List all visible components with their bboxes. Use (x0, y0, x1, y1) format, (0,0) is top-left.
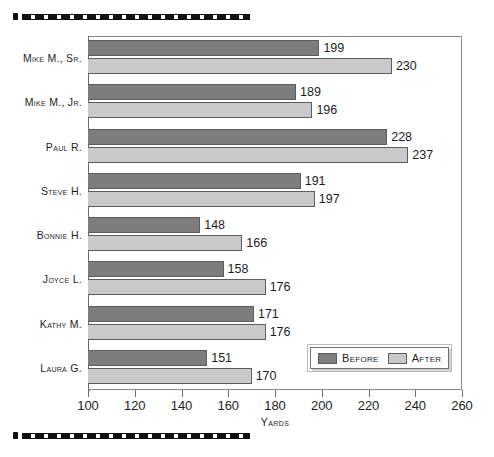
bar-before: 151 (88, 350, 207, 366)
bar-group: Joyce L.158176 (88, 257, 462, 301)
category-label: Mike M., Jr. (25, 96, 82, 108)
bar-value-label: 158 (228, 262, 249, 276)
bar-before: 191 (88, 173, 301, 189)
chart-legend: Before After (310, 347, 449, 369)
axis-tick-label: 220 (358, 398, 380, 413)
category-label: Paul R. (46, 141, 82, 153)
bar-after: 166 (88, 235, 242, 251)
bar-value-label: 189 (300, 85, 321, 99)
rule-dashes (22, 433, 250, 439)
axis-tick (275, 390, 276, 397)
bar-after: 197 (88, 191, 315, 207)
bar-after: 176 (88, 324, 266, 340)
rule-dot-icon (13, 432, 18, 439)
bar-slot: 228 (88, 129, 462, 145)
bar-before: 148 (88, 217, 200, 233)
category-label: Mike M., Sr. (23, 52, 82, 64)
bar-group: Steve H.191197 (88, 169, 462, 213)
bar-value-label: 237 (412, 148, 433, 162)
bar-before: 171 (88, 306, 254, 322)
bar-value-label: 191 (305, 174, 326, 188)
bar-group: Mike M., Sr.199230 (88, 36, 462, 80)
bar-before: 158 (88, 261, 224, 277)
legend-swatch-after-icon (388, 353, 407, 364)
axis-tick-label: 200 (311, 398, 333, 413)
bar-slot: 171 (88, 306, 462, 322)
bar-value-label: 151 (211, 351, 232, 365)
bar-after: 230 (88, 58, 392, 74)
bar-group: Mike M., Jr.189196 (88, 80, 462, 124)
category-label: Kathy M. (40, 318, 82, 330)
axis-tick-label: 260 (451, 398, 473, 413)
bar-slot: 166 (88, 235, 462, 251)
bar-before: 199 (88, 40, 319, 56)
bar-slot: 170 (88, 368, 462, 384)
category-label: Bonnie H. (37, 229, 82, 241)
bar-group: Bonnie H.148166 (88, 213, 462, 257)
bar-slot: 197 (88, 191, 462, 207)
bar-slot: 176 (88, 279, 462, 295)
axis-tick (88, 390, 89, 397)
axis-tick (369, 390, 370, 397)
category-label: Joyce L. (43, 273, 82, 285)
bar-value-label: 196 (316, 103, 337, 117)
bar-slot: 148 (88, 217, 462, 233)
legend-item-before: Before (318, 352, 379, 364)
bar-value-label: 166 (246, 236, 267, 250)
bar-value-label: 171 (258, 307, 279, 321)
bar-group: Paul R.228237 (88, 125, 462, 169)
category-label: Laura G. (40, 362, 82, 374)
axis-tick (228, 390, 229, 397)
bar-before: 228 (88, 129, 387, 145)
bar-value-label: 148 (204, 218, 225, 232)
axis-tick-label: 100 (77, 398, 99, 413)
category-label: Steve H. (41, 185, 82, 197)
axis-tick-label: 240 (404, 398, 426, 413)
bar-value-label: 197 (319, 192, 340, 206)
axis-tick (415, 390, 416, 397)
bar-slot: 158 (88, 261, 462, 277)
bar-value-label: 228 (391, 130, 412, 144)
x-axis-tick-labels: 100120140160180200220240260 (88, 398, 462, 416)
chart-page: Mike M., Sr.199230Mike M., Jr.189196Paul… (0, 0, 494, 457)
top-decorative-rule (13, 12, 250, 21)
bar-value-label: 176 (270, 280, 291, 294)
bottom-decorative-rule (13, 431, 250, 440)
axis-tick-label: 120 (124, 398, 146, 413)
bar-slot: 237 (88, 147, 462, 163)
bar-rows: Mike M., Sr.199230Mike M., Jr.189196Paul… (88, 36, 462, 390)
bar-slot: 196 (88, 102, 462, 118)
bar-before: 189 (88, 84, 296, 100)
bar-after: 196 (88, 102, 312, 118)
legend-label-after: After (412, 352, 442, 364)
bar-slot: 230 (88, 58, 462, 74)
bar-group: Kathy M.171176 (88, 302, 462, 346)
rule-dashes (22, 14, 250, 20)
legend-item-after: After (388, 352, 442, 364)
bar-after: 176 (88, 279, 266, 295)
axis-tick-label: 140 (171, 398, 193, 413)
legend-swatch-before-icon (318, 353, 337, 364)
bar-value-label: 170 (256, 369, 277, 383)
bar-value-label: 176 (270, 325, 291, 339)
axis-tick (135, 390, 136, 397)
axis-tick-label: 180 (264, 398, 286, 413)
bar-slot: 191 (88, 173, 462, 189)
bar-slot: 189 (88, 84, 462, 100)
axis-tick (182, 390, 183, 397)
legend-label-before: Before (342, 352, 379, 364)
bar-slot: 176 (88, 324, 462, 340)
axis-tick (462, 390, 463, 397)
bar-after: 237 (88, 147, 408, 163)
bar-slot: 199 (88, 40, 462, 56)
bar-after: 170 (88, 368, 252, 384)
bar-value-label: 230 (396, 59, 417, 73)
rule-dot-icon (13, 13, 18, 20)
x-axis-title: Yards (88, 416, 462, 428)
axis-tick (322, 390, 323, 397)
axis-tick-label: 160 (217, 398, 239, 413)
bar-value-label: 199 (323, 41, 344, 55)
